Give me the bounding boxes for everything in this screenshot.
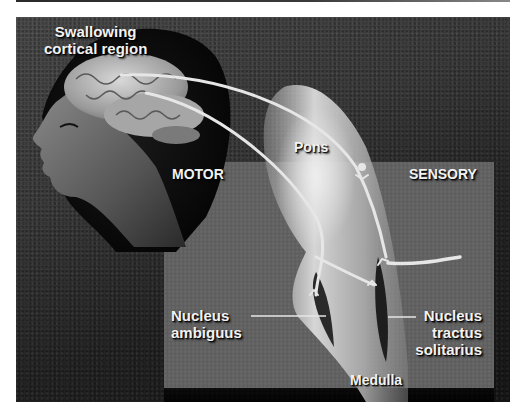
sensory-label: SENSORY [409, 166, 477, 183]
motor-label: MOTOR [172, 166, 224, 183]
nucleus-ambiguus-label: Nucleus ambiguus [171, 307, 242, 341]
label-line: Nucleus [171, 307, 242, 324]
nucleus-tractus-solitarius-label: Nucleus tractus solitarius [414, 307, 482, 358]
label-line: cortical region [44, 40, 147, 57]
medulla-label: Medulla [350, 372, 402, 389]
label-line: tractus [414, 324, 482, 341]
label-line: Nucleus [414, 307, 482, 324]
top-rule [16, 0, 510, 2]
label-line: solitarius [414, 341, 482, 358]
swallowing-cortical-region-label: Swallowing cortical region [44, 23, 147, 57]
label-line: ambiguus [171, 324, 242, 341]
label-line: Swallowing [44, 23, 147, 40]
swallowing-neural-pathway-diagram: Swallowing cortical region MOTOR SENSORY… [16, 17, 510, 402]
brainstem [264, 85, 408, 402]
pons-label: Pons [294, 139, 328, 156]
